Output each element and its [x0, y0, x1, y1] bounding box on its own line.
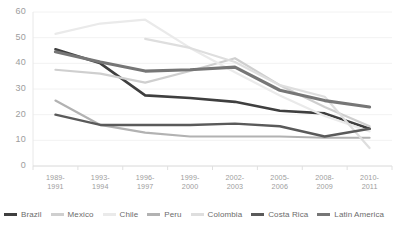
x-tick-label: 2010- 2011 [347, 174, 392, 191]
legend-swatch-icon [147, 213, 160, 216]
legend-label: Chile [120, 210, 139, 219]
legend-label: Colombia [208, 210, 243, 219]
legend-item-peru[interactable]: Peru [147, 210, 181, 219]
legend-item-latin-america[interactable]: Latin America [317, 210, 384, 219]
x-tick-label: 2005- 2006 [257, 174, 302, 191]
x-tick-label: 1996- 1997 [123, 174, 168, 191]
legend-item-brazil[interactable]: Brazil [4, 210, 42, 219]
x-tick-label: 2008- 2009 [302, 174, 347, 191]
legend-swatch-icon [4, 213, 17, 216]
x-tick-label: 1993- 1994 [78, 174, 123, 191]
chart-plot-area [0, 0, 396, 227]
legend-item-chile[interactable]: Chile [103, 210, 139, 219]
legend-item-costa-rica[interactable]: Costa Rica [251, 210, 308, 219]
y-tick-label: 0 [6, 160, 26, 170]
y-tick-label: 10 [6, 134, 26, 144]
y-tick-label: 20 [6, 109, 26, 119]
legend-item-mexico[interactable]: Mexico [51, 210, 94, 219]
legend-label: Mexico [68, 210, 94, 219]
y-tick-label: 50 [6, 32, 26, 42]
x-tick-label: 1989- 1991 [33, 174, 78, 191]
series-line-costa-rica [55, 115, 369, 137]
y-tick-label: 30 [6, 83, 26, 93]
legend-item-colombia[interactable]: Colombia [191, 210, 243, 219]
line-chart: 6050403020100 1989- 19911993- 19941996- … [0, 0, 396, 227]
legend-swatch-icon [317, 213, 330, 216]
legend-label: Brazil [21, 210, 42, 219]
series-lines [55, 20, 369, 148]
legend-swatch-icon [103, 213, 116, 216]
x-tick-marks [33, 166, 392, 170]
legend-swatch-icon [51, 213, 64, 216]
y-tick-label: 60 [6, 6, 26, 16]
legend-swatch-icon [251, 213, 264, 216]
x-tick-label: 2002- 2003 [213, 174, 258, 191]
chart-legend: BrazilMexicoChilePeruColombiaCosta RicaL… [4, 206, 392, 222]
legend-label: Latin America [334, 210, 384, 219]
y-tick-label: 40 [6, 57, 26, 67]
x-tick-label: 1999- 2000 [168, 174, 213, 191]
legend-label: Costa Rica [268, 210, 308, 219]
legend-swatch-icon [191, 213, 204, 216]
series-line-colombia [145, 39, 369, 148]
legend-label: Peru [164, 210, 181, 219]
